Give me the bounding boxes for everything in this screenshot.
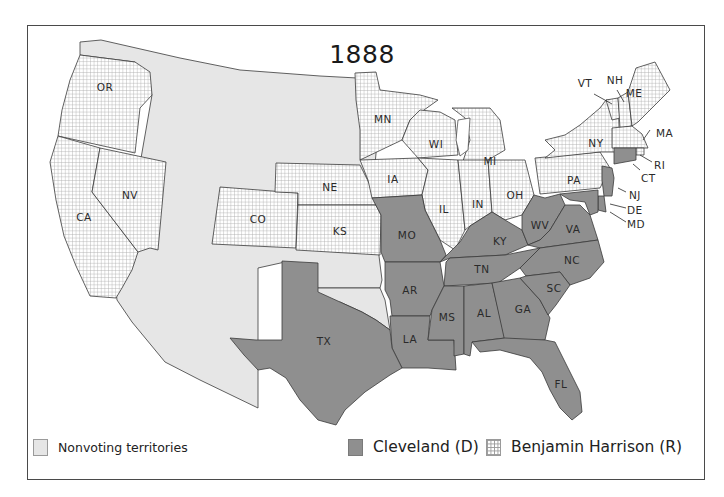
label-nc: NC: [564, 254, 580, 266]
label-fl: FL: [555, 378, 568, 390]
label-co: CO: [250, 213, 267, 225]
label-ks: KS: [333, 225, 348, 237]
leader-ri: [640, 155, 652, 162]
leader-de: [610, 204, 626, 208]
leader-md: [610, 212, 626, 222]
label-ne: NE: [322, 181, 338, 193]
label-al: AL: [477, 307, 491, 319]
label-mo: MO: [398, 229, 416, 241]
label-ky: KY: [493, 235, 507, 247]
label-il: IL: [439, 203, 449, 215]
state-ri: [636, 148, 644, 155]
legend-item-nonvoting: Nonvoting territories: [33, 436, 188, 458]
label-tn: TN: [473, 263, 489, 275]
label-mn: MN: [374, 113, 392, 125]
label-vt: VT: [578, 77, 593, 89]
label-va: VA: [566, 223, 581, 235]
legend-item-harrison: Benjamin Harrison (R): [486, 436, 682, 458]
legend-label-cleveland: Cleveland (D): [373, 438, 479, 456]
label-la: LA: [403, 333, 418, 345]
label-ct: CT: [641, 172, 656, 184]
label-nj: NJ: [629, 189, 641, 201]
state-ma: [612, 126, 648, 148]
map-title: 1888: [0, 40, 724, 69]
label-nh: NH: [607, 74, 624, 86]
label-pa: PA: [567, 174, 581, 186]
label-md: MD: [627, 218, 645, 230]
label-wv: WV: [531, 219, 550, 231]
leader-ct: [633, 164, 640, 170]
label-me: ME: [626, 87, 643, 99]
leader-ma: [643, 130, 650, 140]
label-ia: IA: [387, 173, 399, 185]
label-ms: MS: [439, 311, 456, 323]
label-ri: RI: [654, 159, 665, 171]
label-in: IN: [472, 198, 484, 210]
democrat-swatch: [348, 439, 363, 456]
label-tx: TX: [316, 335, 332, 347]
label-ar: AR: [402, 284, 417, 296]
legend-label-harrison: Benjamin Harrison (R): [511, 438, 682, 456]
election-map: OR CA NV CO NE KS MN IA WI MI IL IN OH P…: [0, 0, 724, 497]
label-ca: CA: [76, 211, 92, 223]
legend-item-cleveland: Cleveland (D): [348, 436, 479, 458]
state-ct: [614, 148, 636, 164]
state-nj: [602, 166, 614, 196]
label-de: DE: [627, 204, 643, 216]
state-de: [598, 196, 606, 212]
state-pa: [535, 152, 610, 194]
label-mi: MI: [483, 155, 496, 167]
label-sc: SC: [547, 282, 562, 294]
leader-vt: [594, 94, 612, 104]
label-nv: NV: [122, 189, 138, 201]
label-ma: MA: [656, 127, 674, 139]
label-or: OR: [97, 81, 114, 93]
label-wi: WI: [429, 138, 443, 150]
leader-nj: [618, 188, 626, 192]
lake-michigan: [456, 118, 470, 156]
nonvoting-swatch: [33, 439, 48, 456]
legend-label-nonvoting: Nonvoting territories: [58, 440, 188, 455]
label-ga: GA: [515, 303, 532, 315]
republican-swatch: [486, 439, 501, 456]
state-or: [58, 55, 152, 153]
label-oh: OH: [506, 189, 523, 201]
label-ny: NY: [588, 137, 603, 149]
